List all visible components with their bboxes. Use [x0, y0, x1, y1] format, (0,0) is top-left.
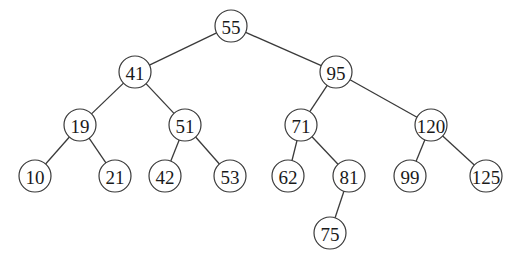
tree-node-81: 81 [333, 160, 365, 192]
tree-edge-41-51 [146, 84, 174, 114]
node-label: 99 [401, 167, 420, 188]
node-label: 53 [221, 167, 240, 188]
node-label: 75 [321, 224, 340, 245]
tree-edge-120-99 [416, 140, 425, 161]
tree-edge-51-42 [171, 140, 179, 161]
tree-edge-71-81 [312, 137, 338, 165]
node-label: 10 [26, 167, 45, 188]
tree-node-62: 62 [272, 160, 304, 192]
tree-edge-95-71 [310, 85, 327, 111]
tree-edge-19-21 [89, 138, 106, 163]
node-label: 95 [327, 63, 346, 84]
tree-node-55: 55 [215, 10, 247, 42]
tree-edge-55-95 [246, 32, 322, 65]
tree-node-42: 42 [149, 160, 181, 192]
node-label: 125 [472, 167, 501, 188]
tree-node-99: 99 [394, 160, 426, 192]
node-label: 19 [71, 116, 90, 137]
tree-edge-95-120 [350, 80, 417, 117]
tree-node-125: 125 [470, 160, 502, 192]
tree-edge-120-125 [443, 136, 475, 165]
tree-node-75: 75 [314, 217, 346, 249]
node-label: 81 [340, 167, 359, 188]
tree-node-120: 120 [415, 109, 447, 141]
tree-node-71: 71 [285, 109, 317, 141]
tree-edge-55-41 [149, 33, 216, 65]
node-label: 62 [279, 167, 298, 188]
tree-node-95: 95 [320, 56, 352, 88]
tree-node-41: 41 [119, 56, 151, 88]
tree-node-53: 53 [214, 160, 246, 192]
tree-node-19: 19 [64, 109, 96, 141]
node-label: 42 [156, 167, 175, 188]
tree-nodes: 5541951951711201021425362819912575 [19, 10, 502, 249]
tree-edge-19-10 [46, 137, 70, 164]
tree-node-21: 21 [99, 160, 131, 192]
tree-edge-41-19 [92, 83, 124, 114]
node-label: 55 [222, 17, 241, 38]
tree-node-51: 51 [169, 109, 201, 141]
node-label: 41 [126, 63, 145, 84]
binary-search-tree-diagram: 5541951951711201021425362819912575 [0, 0, 518, 261]
tree-edge-51-53 [196, 137, 220, 164]
node-label: 71 [292, 116, 311, 137]
node-label: 51 [176, 116, 195, 137]
tree-node-10: 10 [19, 160, 51, 192]
tree-edge-81-75 [335, 191, 344, 218]
tree-edge-71-62 [292, 141, 297, 161]
node-label: 21 [106, 167, 125, 188]
node-label: 120 [417, 116, 446, 137]
